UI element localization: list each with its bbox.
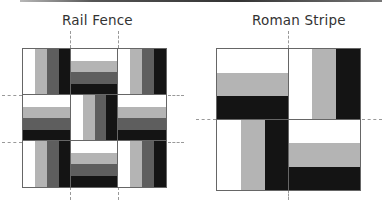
- rail-fence-stripe-dark: [71, 84, 119, 96]
- roman-stripe-stripe-light: [241, 120, 265, 191]
- roman-stripe-stripe-dark: [336, 49, 360, 120]
- rail-fence-cell-2-2: [118, 141, 166, 187]
- rail-fence-guide-left-1: [2, 95, 22, 96]
- roman-stripe-cell-1-0: [217, 120, 289, 191]
- rail-fence-stripe-white: [23, 95, 71, 107]
- rail-fence-guide-right-1: [168, 95, 184, 96]
- rail-fence-cell-0-2: [118, 49, 166, 95]
- rail-fence-stripe-dark: [71, 176, 119, 188]
- rail-fence-stripe-mid: [142, 141, 154, 187]
- rail-fence-stripe-dark: [106, 95, 118, 141]
- rail-fence-stripe-light: [83, 95, 95, 141]
- rail-fence-stripe-white: [118, 49, 130, 95]
- rail-fence-guide-bottom-1: [70, 187, 71, 200]
- rail-fence-cell-1-0: [23, 95, 71, 141]
- rail-fence-guide-right-2: [168, 142, 184, 143]
- roman-stripe-cell-0-0: [217, 49, 289, 120]
- rail-fence-stripe-light: [35, 49, 47, 95]
- rail-fence-stripe-dark: [154, 141, 166, 187]
- rail-fence-stripe-mid: [71, 72, 119, 84]
- rail-fence-stripe-light: [23, 107, 71, 119]
- rail-fence-stripe-white: [71, 95, 83, 141]
- rail-fence-block: [22, 48, 167, 188]
- rail-fence-stripe-light: [71, 153, 119, 165]
- roman-stripe-stripe-light: [289, 143, 361, 167]
- top-divider: [20, 0, 382, 2]
- rail-fence-stripe-light: [71, 61, 119, 73]
- rail-fence-stripe-dark: [118, 130, 166, 142]
- rail-fence-stripe-mid: [142, 49, 154, 95]
- roman-stripe-stripe-dark: [265, 120, 289, 191]
- rail-fence-cell-1-1: [71, 95, 119, 141]
- roman-stripe-stripe-white: [289, 49, 313, 120]
- rail-fence-stripe-dark: [59, 49, 71, 95]
- rail-fence-stripe-white: [23, 141, 35, 187]
- roman-stripe-cell-0-1: [289, 49, 361, 120]
- rail-fence-guide-bottom-2: [118, 187, 119, 200]
- roman-stripe-guide-bottom: [288, 190, 289, 200]
- rail-fence-stripe-light: [130, 141, 142, 187]
- roman-stripe-cell-1-1: [289, 120, 361, 191]
- rail-fence-stripe-dark: [154, 49, 166, 95]
- rail-fence-stripe-white: [71, 49, 119, 61]
- rail-fence-stripe-mid: [47, 49, 59, 95]
- rail-fence-stripe-mid: [95, 95, 107, 141]
- rail-fence-stripe-dark: [23, 130, 71, 142]
- rail-fence-stripe-mid: [23, 118, 71, 130]
- roman-stripe-stripe-light: [217, 73, 289, 97]
- roman-stripe-stripe-dark: [289, 167, 361, 191]
- rail-fence-guide-left-2: [2, 142, 22, 143]
- rail-fence-guide-top-2: [118, 31, 119, 48]
- rail-fence-cell-2-0: [23, 141, 71, 187]
- roman-stripe-title: Roman Stripe: [252, 12, 346, 28]
- rail-fence-title: Rail Fence: [62, 12, 133, 28]
- roman-stripe-stripe-white: [289, 120, 361, 144]
- roman-stripe-guide-right: [362, 119, 382, 120]
- rail-fence-stripe-light: [130, 49, 142, 95]
- rail-fence-stripe-white: [71, 141, 119, 153]
- roman-stripe-guide-top: [288, 31, 289, 48]
- rail-fence-stripe-white: [23, 49, 35, 95]
- rail-fence-cell-0-0: [23, 49, 71, 95]
- rail-fence-stripe-dark: [59, 141, 71, 187]
- roman-stripe-stripe-dark: [217, 96, 289, 120]
- rail-fence-cell-2-1: [71, 141, 119, 187]
- rail-fence-stripe-light: [118, 107, 166, 119]
- roman-stripe-stripe-white: [217, 49, 289, 73]
- rail-fence-stripe-mid: [47, 141, 59, 187]
- roman-stripe-stripe-light: [312, 49, 336, 120]
- rail-fence-stripe-white: [118, 95, 166, 107]
- rail-fence-cell-0-1: [71, 49, 119, 95]
- roman-stripe-guide-left: [196, 119, 216, 120]
- rail-fence-guide-top-1: [70, 31, 71, 48]
- rail-fence-stripe-mid: [118, 118, 166, 130]
- rail-fence-stripe-light: [35, 141, 47, 187]
- rail-fence-stripe-mid: [71, 164, 119, 176]
- roman-stripe-stripe-white: [217, 120, 241, 191]
- roman-stripe-block: [216, 48, 361, 191]
- rail-fence-cell-1-2: [118, 95, 166, 141]
- rail-fence-stripe-white: [118, 141, 130, 187]
